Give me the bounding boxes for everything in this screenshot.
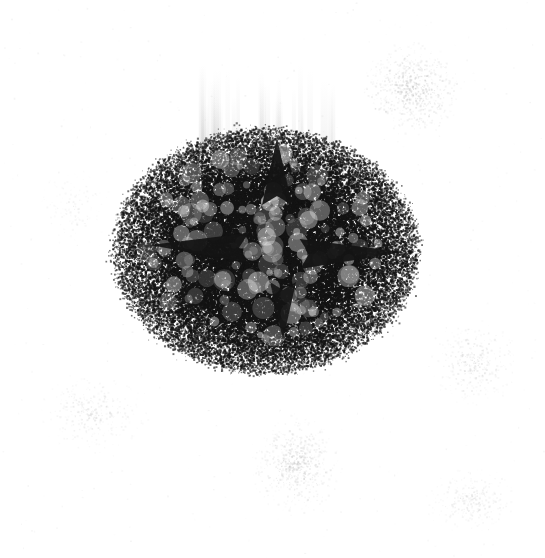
scan-image-viewport: Heavily degraded grayscale scan: a dense…: [0, 0, 545, 558]
noisy-scan-artifact-image: [0, 0, 545, 558]
